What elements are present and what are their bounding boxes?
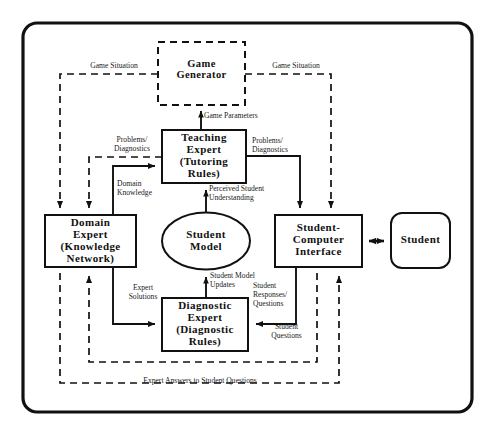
diagram-vector-layer xyxy=(0,0,495,433)
system-boundary xyxy=(23,23,472,412)
node-student-model xyxy=(162,213,250,270)
diagram-canvas: Game Generator Teaching Expert (Tutoring… xyxy=(0,0,495,433)
